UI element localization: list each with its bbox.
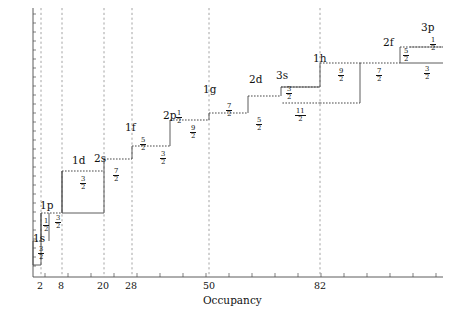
shell-label-1p: 1p: [40, 200, 53, 211]
j-fraction-2p-1_2: 1 2: [176, 110, 182, 125]
shell-label-1s: 1s: [33, 233, 45, 244]
x-tick-label-50: 50: [203, 281, 215, 291]
j-fraction-1p-1_2: 1 2: [43, 218, 49, 233]
x-tick-label-82: 82: [314, 281, 326, 291]
j-fraction-1g-7_2: 7 2: [226, 103, 232, 118]
j-fraction-2f-7_2: 7 2: [376, 68, 382, 83]
magic-number-gridlines: [41, 8, 320, 277]
shell-label-2f: 2f: [383, 37, 394, 48]
j-fraction-1f-3_2: 3 2: [160, 151, 166, 166]
shell-label-3s: 3s: [276, 70, 288, 81]
shell-label-3p: 3p: [421, 22, 434, 33]
shell-label-1h: 1h: [313, 53, 326, 64]
j-fraction-1p-3_2: 3 2: [55, 215, 61, 230]
x-axis-title: Occupancy: [203, 295, 262, 306]
j-fraction-3p-3_2: 3 2: [424, 66, 430, 81]
shell-label-1f: 1f: [125, 122, 136, 133]
j-fraction-2d-3_2: 3 2: [286, 86, 292, 101]
j-fraction-2d-5_2: 5 2: [256, 117, 262, 132]
shell-label-1g: 1g: [203, 84, 216, 95]
x-tick-label-2: 2: [37, 281, 43, 291]
x-tick-label-20: 20: [97, 281, 109, 291]
j-fraction-1f-7_2: 7 2: [113, 168, 119, 183]
x-tick-label-8: 8: [58, 281, 64, 291]
j-fraction-2f-5_2: 5 2: [403, 48, 409, 63]
j-fraction-2p-9_2: 9 2: [190, 125, 196, 140]
j-fraction-3s-11_2: 11 2: [295, 108, 306, 123]
j-fraction-3p-1_2: 1 2: [430, 37, 436, 52]
j-fraction-1d-3_2: 3 2: [80, 176, 86, 191]
shell-model-energy-chart: [0, 0, 449, 316]
shell-label-1d: 1d: [72, 155, 85, 166]
shell-label-2s: 2s: [94, 153, 106, 164]
j-fraction-1f-5_2: 5 2: [140, 137, 146, 152]
j-fraction-1h-9_2: 9 2: [338, 68, 344, 83]
j-fraction-1s-1_2: 3 2: [38, 246, 44, 261]
shell-label-2p: 2p: [163, 110, 176, 121]
shell-label-2d: 2d: [249, 74, 262, 85]
x-tick-label-28: 28: [125, 281, 137, 291]
